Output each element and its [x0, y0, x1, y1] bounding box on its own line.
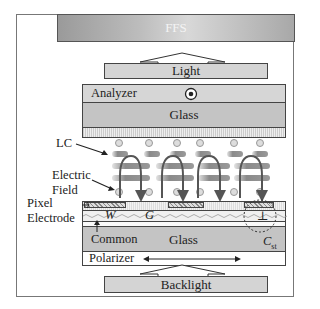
backlight-label: Backlight — [161, 277, 212, 293]
ffs-title-banner: FFS — [57, 14, 295, 42]
bottom-glass-label: Glass — [169, 232, 198, 248]
g-label: G — [145, 208, 154, 223]
pixel-electrode-label-line2: Electrode — [27, 211, 75, 226]
light-box: Light — [104, 63, 268, 79]
top-glass-label: Glass — [170, 107, 199, 123]
analyzer-layer: Analyzer — [82, 84, 286, 103]
analyzer-label: Analyzer — [91, 86, 137, 101]
top-alignment-layer — [82, 128, 286, 138]
pixel-electrode-pointer-icon — [82, 199, 92, 209]
pixel-electrode-label-line1: Pixel — [27, 196, 53, 211]
top-glass-layer: Glass — [82, 103, 286, 128]
cst-label: Cst — [263, 234, 277, 251]
storage-capacitor-circle — [242, 197, 278, 235]
ffs-label: FFS — [165, 20, 187, 36]
common-label: Common — [91, 232, 138, 247]
field-pointer-arrow-icon — [90, 178, 118, 194]
lc-label: LC — [56, 136, 72, 151]
electric-field-label-line1: Electric — [52, 168, 91, 183]
common-pointer-arrow-icon — [93, 220, 101, 232]
backlight-box: Backlight — [104, 276, 268, 293]
pixel-electrode-strip — [168, 202, 204, 208]
electric-field-label-line2: Field — [52, 183, 78, 198]
polarization-dot-icon — [184, 87, 198, 101]
w-label: W — [105, 208, 115, 223]
lc-pointer-arrow-icon — [74, 142, 112, 158]
light-label: Light — [172, 63, 200, 79]
